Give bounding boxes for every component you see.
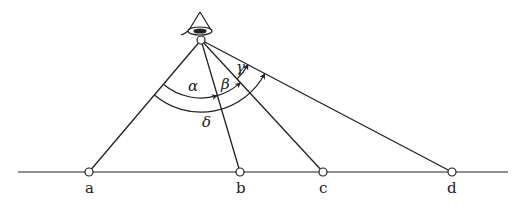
point-b — [236, 168, 244, 176]
label-d: d — [447, 179, 457, 197]
label-delta: δ — [202, 113, 211, 131]
point-d — [448, 168, 456, 176]
arrow-ray-a — [125, 121, 132, 129]
point-markers — [85, 36, 456, 176]
label-b: b — [236, 179, 246, 197]
eye-pupil-point — [197, 36, 205, 44]
ray-c — [201, 40, 323, 172]
label-a: a — [85, 179, 94, 197]
angle-arcs — [154, 65, 264, 113]
arrow-ray-c — [269, 113, 276, 121]
point-a — [85, 168, 93, 176]
angle-diagram: a b c d α β γ δ — [0, 0, 521, 205]
rays — [89, 40, 452, 172]
label-beta: β — [220, 75, 230, 93]
arrow-ray-b — [228, 131, 231, 140]
label-gamma: γ — [236, 58, 245, 76]
eye-icon — [181, 12, 212, 35]
ray-b — [201, 40, 240, 172]
label-c: c — [319, 179, 327, 197]
ray-a — [89, 40, 201, 172]
arc-delta — [154, 74, 264, 112]
ray-arrows — [125, 92, 306, 140]
label-alpha: α — [188, 77, 198, 95]
point-c — [319, 168, 327, 176]
